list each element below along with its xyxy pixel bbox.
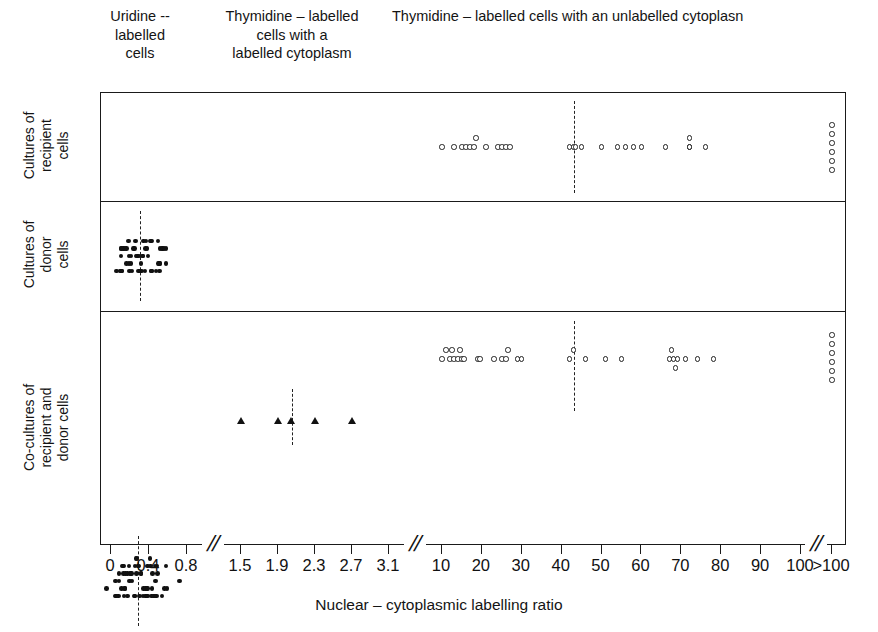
data-point-open-circle: [829, 122, 834, 127]
data-point-open-circle: [675, 356, 680, 361]
data-point-open-circle: [695, 356, 700, 361]
x-axis-tick: [521, 545, 522, 554]
data-point-filled-triangle: [348, 417, 356, 424]
data-point-open-circle: [673, 365, 678, 370]
x-axis-tick: [760, 545, 761, 554]
x-axis-tick-label: 30: [512, 556, 530, 575]
row-label-recipient-cultures: Cultures of recipient cells: [21, 91, 72, 201]
data-point-filled-circle: [119, 269, 124, 274]
data-point-filled-circle: [104, 586, 109, 591]
data-point-open-circle: [623, 144, 628, 149]
data-point-open-circle: [491, 356, 496, 361]
data-point-filled-circle: [143, 269, 148, 274]
data-point-filled-circle: [156, 261, 161, 266]
data-point-filled-circle: [164, 564, 169, 569]
x-axis-tick-label: 1.5: [229, 556, 252, 575]
data-point-open-circle: [471, 144, 476, 149]
data-point-open-circle: [599, 144, 604, 149]
data-point-open-circle: [571, 347, 576, 352]
data-point-open-circle: [443, 347, 448, 352]
data-point-filled-circle: [113, 579, 118, 584]
data-point-open-circle: [829, 377, 834, 382]
data-point-filled-circle: [130, 269, 135, 274]
data-point-filled-circle: [139, 261, 144, 266]
data-point-filled-circle: [156, 239, 161, 244]
x-axis-tick: [640, 545, 641, 554]
x-axis-tick: [601, 545, 602, 554]
x-axis-tick: [561, 545, 562, 554]
x-axis-tick-label: 0.4: [137, 556, 160, 575]
x-axis-tick: [680, 545, 681, 554]
panel-divider-2: [101, 311, 845, 312]
data-point-open-circle: [503, 356, 508, 361]
row-label-donor-cultures: Cultures of donor cells: [21, 200, 72, 310]
data-point-filled-circle: [162, 586, 167, 591]
data-point-open-circle: [483, 144, 488, 149]
x-axis-tick-label: 1.9: [266, 556, 289, 575]
data-point-open-circle: [631, 144, 636, 149]
data-point-open-circle: [449, 347, 454, 352]
data-point-open-circle: [829, 341, 834, 346]
data-point-filled-circle: [130, 579, 135, 584]
column-header-uridine: Uridine -- labelled cells: [84, 7, 196, 63]
x-axis-tick: [240, 545, 241, 554]
data-point-open-circle: [829, 359, 834, 364]
data-point-filled-circle: [129, 261, 134, 266]
data-point-open-circle: [669, 347, 674, 352]
data-point-filled-circle: [146, 254, 151, 259]
x-axis-tick-label: 50: [591, 556, 609, 575]
x-axis-tick-label: 70: [671, 556, 689, 575]
x-axis-tick: [186, 545, 187, 554]
x-axis-tick-label: >100: [812, 556, 849, 575]
data-point-open-circle: [583, 356, 588, 361]
data-point-open-circle: [663, 144, 668, 149]
plot-area: [100, 92, 846, 545]
data-point-open-circle: [439, 144, 444, 149]
data-point-filled-circle: [164, 261, 169, 266]
x-axis-tick: [148, 545, 149, 554]
x-axis-tick-label: 2.7: [340, 556, 363, 575]
column-header-thymidine-unlabelled-cytoplasm: Thymidine – labelled cells with an unlab…: [392, 7, 878, 26]
data-point-open-circle: [439, 356, 444, 361]
column-header-thymidine-labelled-cytoplasm: Thymidine – labelled cells with a labell…: [196, 7, 388, 63]
x-axis-tick: [481, 545, 482, 554]
data-point-open-circle: [683, 356, 688, 361]
x-axis-tick-label: 20: [472, 556, 490, 575]
data-point-open-circle: [505, 347, 510, 352]
data-point-filled-circle: [149, 269, 154, 274]
data-point-open-circle: [829, 131, 834, 136]
data-point-filled-circle: [119, 254, 124, 259]
data-point-open-circle: [829, 368, 834, 373]
chart-figure: Uridine -- labelled cells Thymidine – la…: [0, 0, 878, 632]
data-point-filled-circle: [141, 254, 146, 259]
x-axis-tick-label: 80: [711, 556, 729, 575]
data-point-open-circle: [573, 144, 578, 149]
data-point-filled-triangle: [237, 417, 245, 424]
data-point-open-circle: [829, 350, 834, 355]
data-point-open-circle: [619, 356, 624, 361]
data-point-filled-triangle: [287, 417, 295, 424]
data-point-open-circle: [461, 356, 466, 361]
data-point-filled-circle: [124, 246, 129, 251]
data-point-open-circle: [711, 356, 716, 361]
x-axis-tick-label: 3.1: [377, 556, 400, 575]
x-axis-tick-label: 0.8: [175, 556, 198, 575]
data-point-open-circle: [639, 144, 644, 149]
data-point-open-circle: [567, 356, 572, 361]
x-axis-tick: [831, 545, 832, 554]
x-axis-tick-label: 60: [631, 556, 649, 575]
x-axis-tick-label: 10: [432, 556, 450, 575]
data-point-open-circle: [451, 144, 456, 149]
x-axis: 00.40.81.51.92.32.73.1102030405060708090…: [100, 545, 846, 546]
data-point-filled-circle: [153, 579, 158, 584]
data-point-filled-circle: [129, 254, 134, 259]
data-point-filled-circle: [127, 564, 132, 569]
x-axis-tick: [277, 545, 278, 554]
data-point-open-circle: [457, 347, 462, 352]
data-point-filled-circle: [145, 246, 150, 251]
data-point-open-circle: [829, 332, 834, 337]
data-point-open-circle: [603, 356, 608, 361]
data-point-filled-circle: [126, 239, 131, 244]
x-axis-tick-label: 40: [551, 556, 569, 575]
data-point-open-circle: [477, 356, 482, 361]
